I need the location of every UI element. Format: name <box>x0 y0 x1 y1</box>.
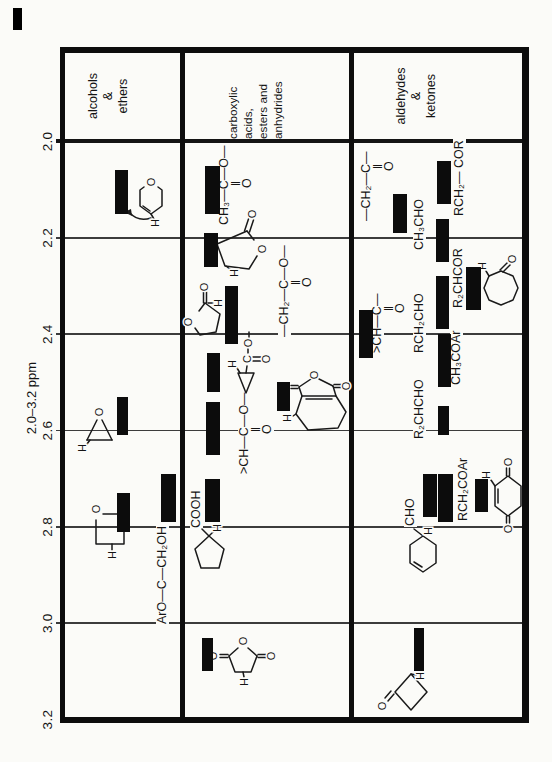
range-bar <box>205 479 220 522</box>
carbonyl-o-label: O <box>265 651 277 660</box>
h-label: H <box>414 672 426 680</box>
scanned-page: 2.0–3.2 ppm 2.02.22.42.62.83.03.2 alcoho… <box>0 0 552 762</box>
range-bar <box>436 219 449 262</box>
c-label: C <box>241 355 253 363</box>
range-bar <box>414 628 424 671</box>
range-bar <box>438 474 453 522</box>
o-label: O <box>145 177 157 186</box>
ester-o-label: O <box>242 338 254 347</box>
structure-cyclopentane-cooh: H <box>195 524 224 568</box>
h-label: H <box>149 219 161 227</box>
structure-drawings: O H O H O H <box>0 0 552 762</box>
structure-cyclooctanone: O H <box>476 254 518 305</box>
h-label: H <box>226 360 238 368</box>
structure-cyclohexene-cho: H <box>410 527 436 572</box>
range-bar <box>438 406 449 435</box>
range-bar <box>206 402 220 455</box>
structure-succinic-anhydride: O O O H <box>207 636 277 686</box>
carbonyl-o-label: O <box>198 282 210 291</box>
range-bar <box>117 493 130 532</box>
ring-o-label: O <box>308 370 320 379</box>
h-label: H <box>106 551 118 559</box>
structure-epoxide: O H <box>76 407 112 452</box>
o-label: O <box>90 504 102 513</box>
range-bar <box>161 474 176 522</box>
structure-lactone: O O H <box>182 282 224 335</box>
h-label: H <box>238 678 250 686</box>
h-label: H <box>422 527 434 535</box>
range-bar <box>438 334 451 387</box>
range-bar <box>277 382 290 411</box>
range-bar <box>225 286 238 344</box>
h-label: H <box>76 444 88 452</box>
range-bar <box>117 397 128 436</box>
range-bar <box>466 267 481 310</box>
o-label: O <box>93 407 105 416</box>
carbonyl-o-label: O <box>246 209 258 218</box>
structure-butyrolactone: O O H <box>217 209 268 277</box>
range-bar <box>436 276 449 329</box>
o-label: O <box>502 524 514 533</box>
carbonyl-o-label: O <box>340 381 352 390</box>
range-bar <box>204 233 218 267</box>
h-label: H <box>211 524 223 532</box>
range-bar <box>423 474 437 517</box>
h-label: H <box>281 414 293 422</box>
range-bar <box>202 638 213 672</box>
range-bar <box>437 161 451 204</box>
structure-dihydropyran: O H <box>124 177 162 227</box>
ring-o-label: O <box>256 244 268 253</box>
range-bar <box>475 479 488 513</box>
ring-o-label: O <box>237 636 249 645</box>
range-bar <box>393 195 407 234</box>
o-label: O <box>376 701 388 710</box>
chart-canvas-rotated: 2.0–3.2 ppm 2.02.22.42.62.83.03.2 alcoho… <box>0 0 552 762</box>
o-label: O <box>502 457 514 466</box>
ring-o-label: O <box>182 317 194 326</box>
range-bar <box>359 310 373 358</box>
carbonyl-o-label: O <box>260 354 272 363</box>
range-bar <box>205 166 220 214</box>
range-bar <box>115 170 128 213</box>
structure-cyclobutanone: O H <box>376 672 427 710</box>
range-bar <box>207 353 220 392</box>
h-label: H <box>228 269 240 277</box>
h-label: H <box>212 299 224 307</box>
o-label: O <box>506 254 518 263</box>
